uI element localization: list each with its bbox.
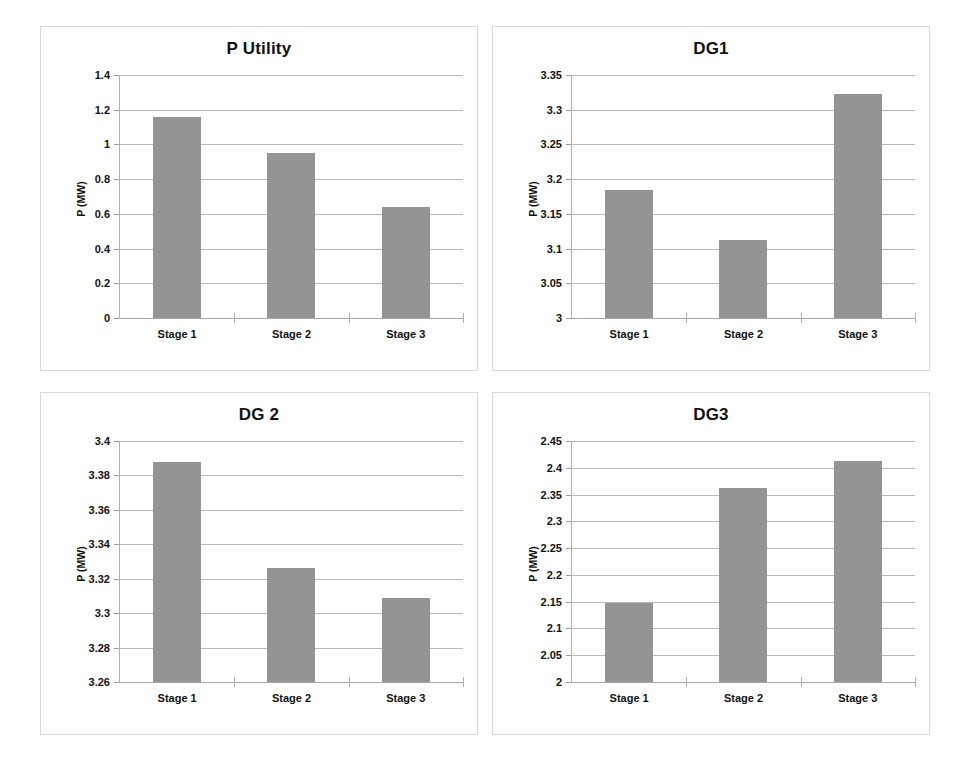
y-tick-mark bbox=[566, 179, 571, 180]
bar[interactable] bbox=[719, 240, 767, 318]
x-tick-label: Stage 2 bbox=[686, 328, 800, 340]
y-tick-mark bbox=[566, 521, 571, 522]
y-tick-mark bbox=[566, 548, 571, 549]
y-tick-label: 1.2 bbox=[95, 104, 110, 115]
x-tick-mark bbox=[349, 677, 350, 687]
chart-panel-p-utility: P Utility P (MW) 00.20.40.60.811.21.4Sta… bbox=[40, 26, 478, 371]
y-tick-label: 3.25 bbox=[541, 139, 562, 150]
y-axis-title: P (MW) bbox=[527, 546, 539, 581]
bar-slot: Stage 3 bbox=[801, 75, 915, 318]
y-tick-label: 1 bbox=[104, 139, 110, 150]
x-tick-label: Stage 2 bbox=[234, 692, 348, 704]
x-tick-label: Stage 1 bbox=[572, 692, 686, 704]
y-tick-label: 3.05 bbox=[541, 278, 562, 289]
y-tick-label: 0.8 bbox=[95, 174, 110, 185]
y-tick-mark bbox=[114, 75, 119, 76]
y-tick-label: 2.4 bbox=[547, 462, 562, 473]
bar-slot: Stage 3 bbox=[349, 75, 463, 318]
y-tick-label: 3.38 bbox=[89, 470, 110, 481]
bar[interactable] bbox=[834, 461, 882, 682]
y-tick-label: 3.35 bbox=[541, 70, 562, 81]
y-axis-title: P (MW) bbox=[75, 546, 87, 581]
y-tick-mark bbox=[566, 318, 571, 319]
y-tick-label: 3.1 bbox=[547, 243, 562, 254]
y-tick-mark bbox=[114, 544, 119, 545]
x-tick-label: Stage 1 bbox=[120, 328, 234, 340]
x-tick-label: Stage 2 bbox=[234, 328, 348, 340]
y-tick-mark bbox=[566, 144, 571, 145]
y-tick-label: 3 bbox=[556, 313, 562, 324]
y-tick-mark bbox=[114, 214, 119, 215]
y-tick-mark bbox=[114, 510, 119, 511]
bar-slot: Stage 2 bbox=[234, 441, 348, 682]
y-tick-mark bbox=[114, 318, 119, 319]
chart-panel-dg3: DG3 P (MW) 22.052.12.152.22.252.32.352.4… bbox=[492, 392, 930, 735]
plot-area: 00.20.40.60.811.21.4Stage 1Stage 2Stage … bbox=[119, 75, 463, 318]
y-tick-label: 2 bbox=[556, 677, 562, 688]
y-tick-mark bbox=[114, 179, 119, 180]
bar-slot: Stage 3 bbox=[349, 441, 463, 682]
bar-slot: Stage 2 bbox=[686, 75, 800, 318]
y-tick-mark bbox=[566, 602, 571, 603]
gridline bbox=[119, 318, 463, 319]
y-tick-label: 3.36 bbox=[89, 504, 110, 515]
y-tick-label: 0.6 bbox=[95, 208, 110, 219]
bar[interactable] bbox=[382, 598, 430, 682]
x-tick-mark bbox=[234, 677, 235, 687]
plot-area: 33.053.13.153.23.253.33.35Stage 1Stage 2… bbox=[571, 75, 915, 318]
bar-series: Stage 1Stage 2Stage 3 bbox=[120, 441, 463, 682]
x-tick-mark bbox=[686, 677, 687, 687]
y-tick-label: 0.4 bbox=[95, 243, 110, 254]
y-tick-mark bbox=[566, 495, 571, 496]
y-tick-mark bbox=[114, 283, 119, 284]
bar-slot: Stage 2 bbox=[234, 75, 348, 318]
plot-area: 22.052.12.152.22.252.32.352.42.45Stage 1… bbox=[571, 441, 915, 682]
y-tick-mark bbox=[566, 468, 571, 469]
bar[interactable] bbox=[834, 94, 882, 318]
chart-panel-dg2: DG 2 P (MW) 3.263.283.33.323.343.363.383… bbox=[40, 392, 478, 735]
y-tick-label: 3.2 bbox=[547, 174, 562, 185]
plot-area: 3.263.283.33.323.343.363.383.4Stage 1Sta… bbox=[119, 441, 463, 682]
x-tick-mark bbox=[801, 313, 802, 323]
y-tick-mark bbox=[566, 682, 571, 683]
chart-title: DG3 bbox=[493, 405, 929, 425]
x-tick-mark bbox=[801, 677, 802, 687]
bar[interactable] bbox=[605, 190, 653, 318]
y-tick-mark bbox=[566, 441, 571, 442]
y-tick-mark bbox=[114, 144, 119, 145]
y-tick-label: 3.32 bbox=[89, 573, 110, 584]
gridline bbox=[119, 682, 463, 683]
bar[interactable] bbox=[605, 603, 653, 682]
bar-series: Stage 1Stage 2Stage 3 bbox=[572, 75, 915, 318]
y-tick-label: 2.25 bbox=[541, 543, 562, 554]
bar[interactable] bbox=[719, 488, 767, 682]
y-axis-title: P (MW) bbox=[75, 181, 87, 216]
bar[interactable] bbox=[267, 568, 315, 682]
x-tick-label: Stage 3 bbox=[349, 692, 463, 704]
gridline bbox=[571, 682, 915, 683]
y-tick-mark bbox=[566, 575, 571, 576]
y-tick-label: 3.26 bbox=[89, 677, 110, 688]
bar[interactable] bbox=[382, 207, 430, 318]
y-axis-title: P (MW) bbox=[527, 181, 539, 216]
y-tick-mark bbox=[114, 110, 119, 111]
bar-slot: Stage 2 bbox=[686, 441, 800, 682]
y-tick-mark bbox=[566, 283, 571, 284]
x-tick-mark bbox=[915, 677, 916, 687]
x-tick-mark bbox=[463, 313, 464, 323]
y-tick-label: 2.15 bbox=[541, 596, 562, 607]
y-tick-label: 3.15 bbox=[541, 208, 562, 219]
bar[interactable] bbox=[153, 462, 201, 682]
x-tick-mark bbox=[686, 313, 687, 323]
x-tick-label: Stage 3 bbox=[801, 692, 915, 704]
bar-slot: Stage 1 bbox=[572, 441, 686, 682]
bar-slot: Stage 1 bbox=[120, 441, 234, 682]
bar[interactable] bbox=[153, 117, 201, 318]
bar-slot: Stage 1 bbox=[572, 75, 686, 318]
y-tick-mark bbox=[566, 75, 571, 76]
y-tick-mark bbox=[114, 682, 119, 683]
x-tick-label: Stage 3 bbox=[349, 328, 463, 340]
bar[interactable] bbox=[267, 153, 315, 318]
y-tick-label: 2.3 bbox=[547, 516, 562, 527]
x-tick-mark bbox=[915, 313, 916, 323]
